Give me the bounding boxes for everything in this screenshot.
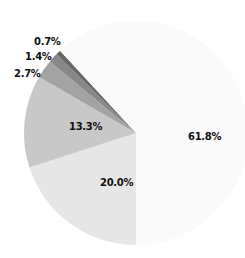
slice-label: 13.3% xyxy=(69,121,102,132)
slice-label: 1.4% xyxy=(25,51,52,62)
pie-chart: 20.0%13.3%2.7%1.4%0.7%61.8% xyxy=(0,0,245,258)
slice-label: 0.7% xyxy=(34,36,61,47)
slice-label: 61.8% xyxy=(188,131,221,142)
slice-label: 2.7% xyxy=(14,68,41,79)
slice-label: 20.0% xyxy=(100,177,133,188)
